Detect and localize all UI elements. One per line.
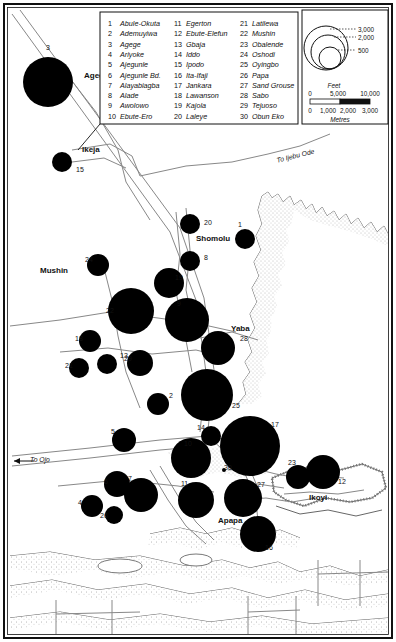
circle-number-5: 5: [111, 428, 115, 435]
legend-number-9: 9: [108, 101, 112, 110]
harbour-inlet-east: [180, 554, 212, 566]
legend-number-7: 7: [108, 81, 112, 90]
legend-label-24: Oshodi: [252, 50, 275, 59]
circle-number-6: 6: [104, 478, 108, 485]
circle-number-15: 15: [76, 166, 84, 173]
legend-number-5: 5: [108, 60, 112, 69]
scale-unit-metres: Metres: [330, 116, 350, 123]
legend-label-28: Sabo: [252, 91, 269, 100]
legend-label-18: Lawanson: [186, 91, 219, 100]
legend-number-10: 10: [108, 112, 116, 121]
legend-number-27: 27: [240, 81, 248, 90]
legend-number-14: 14: [174, 50, 182, 59]
legend-number-11: 11: [174, 19, 181, 28]
circle-number-14: 14: [197, 424, 205, 431]
legend-label-10: Ebute-Ero: [120, 112, 152, 121]
scale-metres-tick-0: 0: [308, 107, 312, 114]
map-canvas: 3152018241992218132921282251410175764261…: [0, 0, 396, 642]
legend-label-27: Sand Grouse: [252, 81, 294, 90]
legend-number-15: 15: [174, 60, 182, 69]
circle-number-23: 23: [288, 459, 296, 466]
proportional-circle-2: [147, 393, 169, 415]
legend-label-25: Oyingbo: [252, 60, 279, 69]
circle-number-3: 3: [46, 44, 50, 51]
legend-label-30: Obun Eko: [252, 112, 284, 121]
legend-number-25: 25: [240, 60, 248, 69]
legend-number-29: 29: [240, 101, 248, 110]
size-key-label-3000: 3,000: [358, 26, 374, 33]
legend-number-2: 2: [108, 29, 112, 38]
harbour-inlet-west: [98, 559, 142, 573]
circle-number-30: 30: [224, 464, 232, 471]
circle-number-12: 12: [338, 478, 346, 485]
scale-bar-segment-dark: [340, 99, 370, 104]
legend-number-28: 28: [240, 91, 248, 100]
legend-number-20: 20: [174, 112, 182, 121]
circle-number-11: 11: [181, 480, 188, 487]
circle-number-1: 1: [238, 221, 242, 228]
circle-number-8: 8: [204, 254, 208, 261]
legend-label-11: Egerton: [186, 19, 211, 28]
circle-number-4: 4: [78, 499, 82, 506]
proportional-circle-8: [180, 251, 200, 271]
legend-number-23: 23: [240, 40, 248, 49]
circle-number-29: 29: [124, 355, 132, 362]
proportional-circle-9: [165, 298, 209, 342]
scale-feet-tick-5000: 5,000: [330, 90, 346, 97]
legend-label-17: Jankara: [185, 81, 212, 90]
circle-number-20: 20: [204, 219, 212, 226]
place-label-ikoyi: Ikoyi: [309, 493, 327, 502]
legend-number-12: 12: [174, 29, 182, 38]
circle-number-24: 24: [85, 256, 93, 263]
legend-label-5: Ajegunle: [119, 60, 148, 69]
legend-number-19: 19: [174, 101, 182, 110]
place-label-shomolu: Shomolu: [196, 234, 230, 243]
proportional-circle-12: [306, 455, 340, 489]
place-label-apapa: Apapa: [218, 516, 243, 525]
road-label-to-ojo: To Ojo: [30, 456, 50, 464]
circle-number-9: 9: [177, 300, 181, 307]
legend-label-6: Ajegunle Bd.: [119, 71, 161, 80]
proportional-circle-29: [127, 350, 153, 376]
legend-label-23: Obalende: [252, 40, 283, 49]
scale-metres-tick-2000: 2,000: [340, 107, 356, 114]
circle-number-19: 19: [175, 274, 183, 281]
circle-number-26: 26: [100, 512, 108, 519]
size-and-scale-key: 3,000 2,000 500 Feet 0 5,000 10,000 0 1,…: [302, 10, 388, 124]
circle-number-18: 18: [75, 335, 83, 342]
proportional-circle-5: [112, 428, 136, 452]
legend-label-3: Agege: [119, 40, 141, 49]
proportional-circle-25: [181, 369, 233, 421]
scale-metres-tick-3000: 3,000: [362, 107, 378, 114]
legend-number-8: 8: [108, 91, 112, 100]
legend-label-22: Mushin: [252, 29, 275, 38]
proportional-circle-13: [97, 354, 117, 374]
legend-label-26: Papa: [252, 71, 269, 80]
proportional-circle-11: [178, 482, 214, 518]
scale-bar-segment-light: [310, 99, 340, 104]
scale-feet-tick-10000: 10,000: [360, 90, 380, 97]
circle-number-21: 21: [65, 362, 73, 369]
proportional-circle-3: [23, 57, 73, 107]
legend-number-22: 22: [240, 29, 248, 38]
legend-number-26: 26: [240, 71, 248, 80]
legend-number-21: 21: [240, 19, 248, 28]
legend-label-13: Gbaja: [186, 40, 205, 49]
map-figure: 3152018241992218132921282251410175764261…: [0, 0, 396, 642]
legend-label-21: Latilewa: [252, 19, 278, 28]
legend-label-1: Abule-Okuta: [119, 19, 160, 28]
legend-number-18: 18: [174, 91, 182, 100]
legend-label-2: Ademuyiwa: [119, 29, 157, 38]
legend-number-16: 16: [174, 71, 182, 80]
circle-number-16: 16: [265, 544, 273, 551]
legend-number-13: 13: [174, 40, 182, 49]
legend-label-16: Ita-Ifaji: [186, 71, 208, 80]
legend-label-14: Iddo: [186, 50, 200, 59]
legend-label-29: Tejuoso: [252, 101, 277, 110]
legend-label-8: Alade: [119, 91, 138, 100]
circle-number-10: 10: [184, 440, 192, 447]
place-label-mushin: Mushin: [40, 266, 68, 275]
circle-number-28: 28: [240, 335, 248, 342]
proportional-circle-28: [201, 331, 235, 365]
legend-number-24: 24: [240, 50, 248, 59]
